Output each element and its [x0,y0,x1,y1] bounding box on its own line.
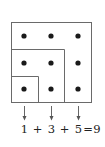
dot [48,86,53,91]
dot [75,86,80,91]
dot [48,33,53,38]
dot [48,60,53,65]
dot [75,33,80,38]
equation: 1 + 3 + 5 = 9 [21,122,101,136]
dot-grid [21,33,80,91]
odd-sum-square-diagram: 1 + 3 + 5 = 9 [0,0,105,147]
equation-term-2: 3 [48,122,55,136]
equation-plus-2: + [60,122,70,136]
dot [75,60,80,65]
arrows [23,106,81,121]
dot [21,33,26,38]
arrow-down-icon [50,106,54,121]
arrow-down-icon [23,106,27,121]
equation-term-3: 5 [75,122,82,136]
equation-equals: = [83,122,93,136]
equation-result: 9 [93,122,100,136]
dot [21,86,26,91]
equation-plus-1: + [33,122,43,136]
arrow-down-icon [77,106,81,121]
equation-term-1: 1 [21,122,28,136]
dot [21,60,26,65]
